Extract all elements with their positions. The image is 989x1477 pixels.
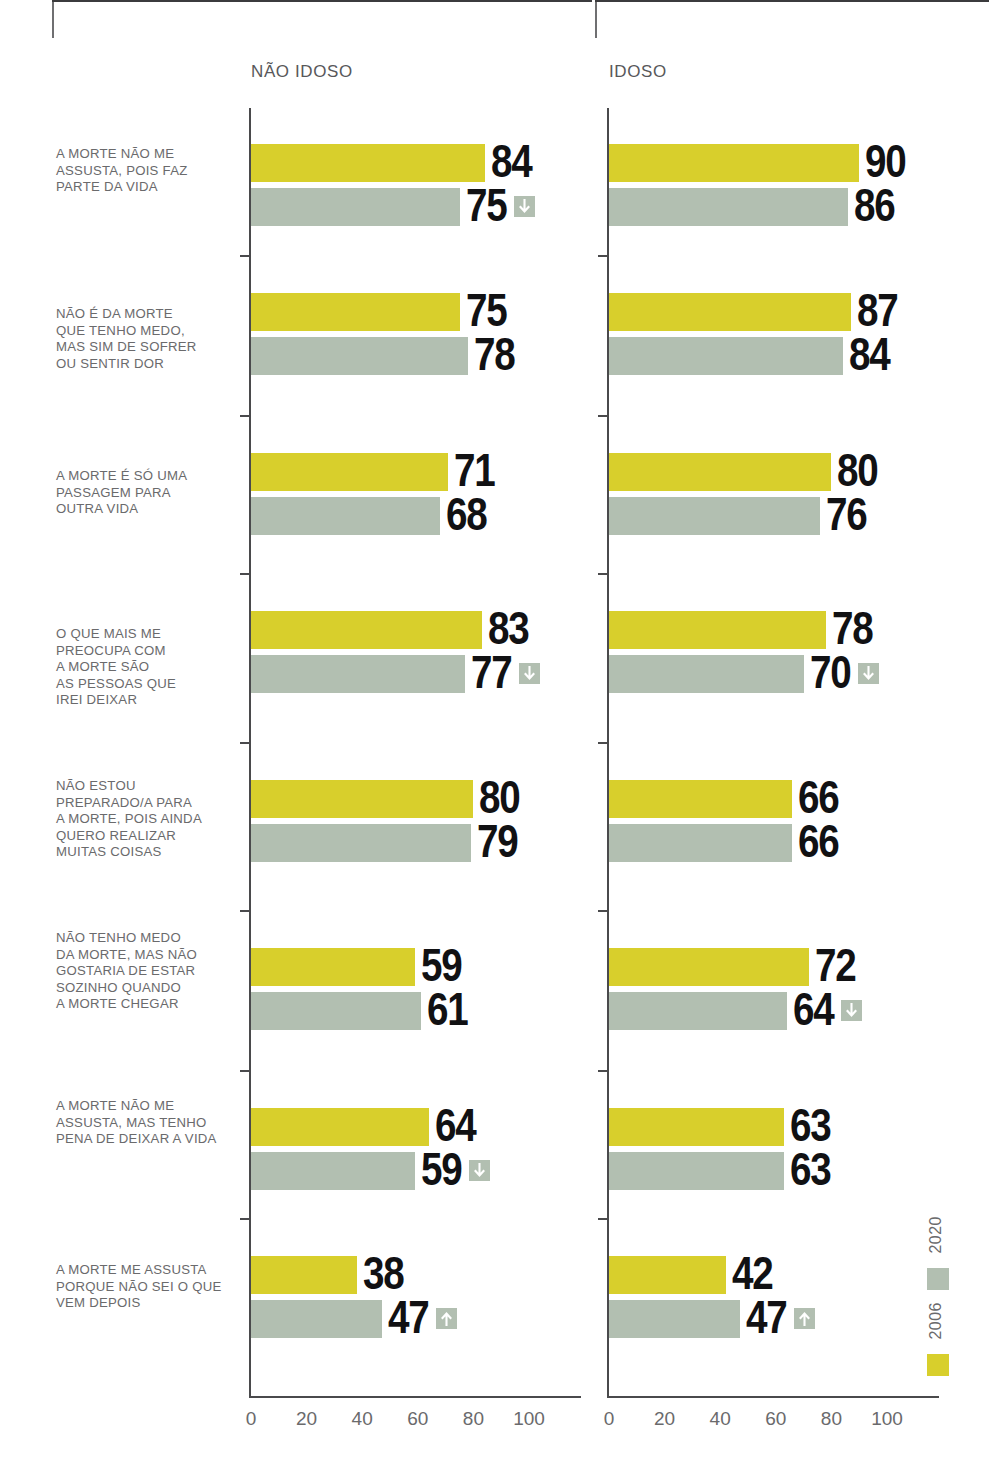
bar-value-label: 80 [479, 774, 519, 820]
bar-2020 [609, 497, 820, 535]
change-badge-down [469, 1160, 490, 1181]
row-label: NÃO É DA MORTEQUE TENHO MEDO,MAS SIM DE … [56, 306, 246, 372]
bar-value-label: 70 [810, 649, 850, 695]
bar-value-label: 84 [491, 138, 531, 184]
y-axis-tick [240, 415, 249, 417]
bar-value-label: 78 [832, 605, 872, 651]
change-badge-down [514, 196, 535, 217]
bar-value-label: 63 [790, 1102, 830, 1148]
bar-value-label: 80 [837, 447, 877, 493]
row-label-line: PREOCUPA COM [56, 643, 246, 660]
arrow-down-icon [858, 663, 879, 684]
bar-value-label: 75 [466, 287, 506, 333]
x-axis-tick-label: 0 [246, 1408, 257, 1430]
bar-2020 [251, 497, 440, 535]
x-axis-line-left [249, 1396, 581, 1398]
header-divider-left [52, 0, 54, 38]
bar-2006 [251, 611, 482, 649]
bar-2020 [609, 337, 843, 375]
row-label-line: A MORTE, POIS AINDA [56, 811, 246, 828]
row-label-line: PASSAGEM PARA [56, 485, 246, 502]
y-axis-tick [240, 910, 249, 912]
row-label-line: A MORTE ME ASSUSTA [56, 1262, 246, 1279]
x-axis-tick-label: 100 [871, 1408, 903, 1430]
bar-value-label: 59 [421, 1146, 461, 1192]
bar-2020 [609, 1152, 784, 1190]
bar-2006 [609, 1256, 726, 1294]
row-label: NÃO TENHO MEDODA MORTE, MAS NÃOGOSTARIA … [56, 930, 246, 1013]
bar-2020 [609, 824, 792, 862]
row-label-line: PREPARADO/A PARA [56, 795, 246, 812]
bar-value-label: 66 [798, 774, 838, 820]
y-axis-tick [240, 742, 249, 744]
row-label-line: NÃO É DA MORTE [56, 306, 246, 323]
row-label-line: ASSUSTA, MAS TENHO [56, 1115, 246, 1132]
bar-value-label: 75 [466, 182, 506, 228]
legend-swatch-2020 [927, 1268, 949, 1290]
bar-2020 [251, 655, 465, 693]
bar-2006 [609, 453, 831, 491]
y-axis-tick [598, 573, 607, 575]
y-axis-tick [240, 1218, 249, 1220]
bar-2006 [251, 780, 473, 818]
header-rule-left [52, 0, 592, 2]
row-label: A MORTE É SÓ UMAPASSAGEM PARAOUTRA VIDA [56, 468, 246, 518]
arrow-down-icon [519, 663, 540, 684]
bar-value-label: 87 [857, 287, 897, 333]
arrow-down-icon [514, 196, 535, 217]
bar-2006 [251, 948, 415, 986]
x-axis-tick-label: 0 [604, 1408, 615, 1430]
bar-2006 [251, 1256, 357, 1294]
row-label-line: A MORTE NÃO ME [56, 1098, 246, 1115]
bar-value-label: 42 [732, 1250, 772, 1296]
change-badge-up [794, 1308, 815, 1329]
header-divider-right [595, 0, 597, 38]
bar-value-label: 77 [471, 649, 511, 695]
row-label-line: AS PESSOAS QUE [56, 676, 246, 693]
legend-label-2020: 2020 [927, 1216, 945, 1254]
row-label-line: A MORTE CHEGAR [56, 996, 246, 1013]
x-axis-tick-label: 20 [654, 1408, 675, 1430]
row-label-line: PARTE DA VIDA [56, 179, 246, 196]
bar-2006 [609, 293, 851, 331]
row-label-line: O QUE MAIS ME [56, 626, 246, 643]
bar-value-label: 63 [790, 1146, 830, 1192]
x-axis-tick-label: 80 [463, 1408, 484, 1430]
x-axis-tick-label: 100 [513, 1408, 545, 1430]
x-axis-tick-label: 40 [352, 1408, 373, 1430]
row-label: A MORTE ME ASSUSTAPORQUE NÃO SEI O QUEVE… [56, 1262, 246, 1312]
row-label: NÃO ESTOUPREPARADO/A PARAA MORTE, POIS A… [56, 778, 246, 861]
arrow-down-icon [841, 1000, 862, 1021]
header-rule-right [595, 0, 989, 2]
bar-2006 [251, 1108, 429, 1146]
row-label-line: DA MORTE, MAS NÃO [56, 947, 246, 964]
bar-value-label: 64 [435, 1102, 475, 1148]
bar-2006 [251, 293, 460, 331]
row-label: O QUE MAIS MEPREOCUPA COMA MORTE SÃOAS P… [56, 626, 246, 709]
bar-2006 [609, 948, 809, 986]
arrow-up-icon [794, 1308, 815, 1329]
row-label-line: GOSTARIA DE ESTAR [56, 963, 246, 980]
change-badge-up [436, 1308, 457, 1329]
bar-value-label: 78 [474, 331, 514, 377]
bar-2020 [251, 337, 468, 375]
row-label-line: VEM DEPOIS [56, 1295, 246, 1312]
y-axis-tick [598, 1218, 607, 1220]
row-label-line: OUTRA VIDA [56, 501, 246, 518]
x-axis-line-right [607, 1396, 939, 1398]
y-axis-tick [598, 910, 607, 912]
change-badge-down [858, 663, 879, 684]
y-axis-tick [240, 573, 249, 575]
bar-value-label: 71 [454, 447, 494, 493]
row-label-line: QUERO REALIZAR [56, 828, 246, 845]
panel-title-nao-idoso: NÃO IDOSO [251, 62, 353, 82]
y-axis-tick [240, 1070, 249, 1072]
row-label-line: SOZINHO QUANDO [56, 980, 246, 997]
bar-2020 [251, 1300, 382, 1338]
legend-label-2006: 2006 [927, 1302, 945, 1340]
row-label: A MORTE NÃO MEASSUSTA, MAS TENHOPENA DE … [56, 1098, 246, 1148]
bar-value-label: 47 [388, 1294, 428, 1340]
top-cropped-header [0, 0, 989, 46]
bar-2020 [609, 188, 848, 226]
bar-value-label: 66 [798, 818, 838, 864]
